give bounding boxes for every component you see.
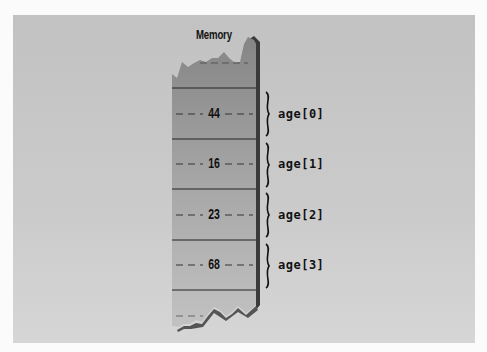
- memory-title: Memory: [196, 28, 232, 42]
- cell-value-2: 23: [183, 206, 246, 222]
- cell-value-1: 16: [183, 155, 246, 171]
- cell-value-0: 44: [183, 105, 246, 121]
- element-label-0: age[0]: [278, 107, 324, 121]
- cell-value-3: 68: [183, 256, 246, 272]
- element-label-1: age[1]: [278, 157, 324, 171]
- element-label-3: age[3]: [278, 258, 324, 272]
- element-label-2: age[2]: [278, 208, 324, 222]
- memory-column-graphic: [0, 0, 487, 352]
